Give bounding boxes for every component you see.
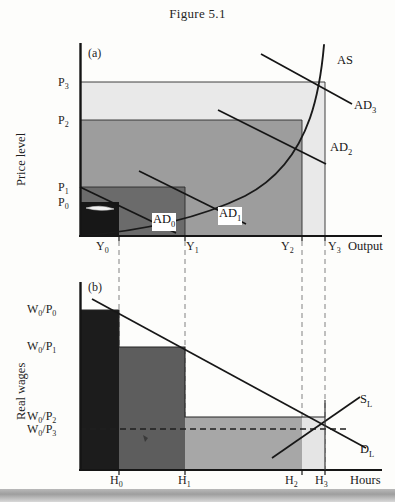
ytick-w0p3: W0/P3	[27, 422, 56, 438]
xtick-h1: H1	[178, 473, 191, 489]
panel-a-xlabel: Output	[348, 239, 383, 254]
xtick-y2: Y2	[281, 239, 294, 255]
as-label: AS	[337, 53, 353, 68]
rect-w1-h1	[119, 347, 185, 470]
ytick-w0p1: W0/P1	[27, 339, 56, 355]
rect-w3-h3	[302, 417, 325, 470]
xtick-y1: Y1	[186, 239, 199, 255]
xtick-h0: H0	[110, 473, 123, 489]
ytick-p0: P0	[58, 195, 69, 211]
ad0-label: AD0	[152, 213, 176, 231]
xtick-h3: H3	[315, 473, 328, 489]
ad2-label: AD2	[330, 140, 352, 157]
page-bottom-bar	[0, 489, 395, 502]
ytick-p3: P3	[58, 75, 69, 91]
ytick-p2: P2	[58, 113, 69, 129]
xtick-y3: Y3	[328, 239, 341, 255]
ytick-w0p0: W0/P0	[27, 302, 56, 318]
panel-b-xlabel: Hours	[350, 473, 381, 488]
ytick-p1: P1	[58, 180, 69, 196]
sl-label: SL	[360, 392, 372, 409]
rect-w0-h0	[80, 310, 119, 470]
ad1-label: AD1	[218, 207, 242, 225]
figure-container: Figure 5.1 Price level Real wages (a) (b…	[0, 0, 395, 502]
ad3-label: AD3	[354, 98, 376, 115]
xtick-h2: H2	[285, 473, 298, 489]
dl-label: DL	[360, 442, 374, 459]
rect-w2-h2	[185, 417, 302, 470]
xtick-y0: Y0	[96, 239, 109, 255]
